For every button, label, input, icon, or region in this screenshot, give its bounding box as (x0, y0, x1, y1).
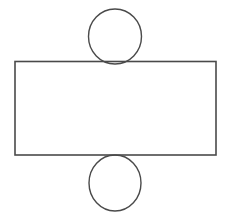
lateral-surface-rectangle (15, 62, 216, 156)
top-circle-base (89, 9, 142, 64)
diagram-svg (0, 0, 226, 213)
bottom-circle-base (89, 155, 141, 211)
cylinder-net-diagram (0, 0, 226, 213)
